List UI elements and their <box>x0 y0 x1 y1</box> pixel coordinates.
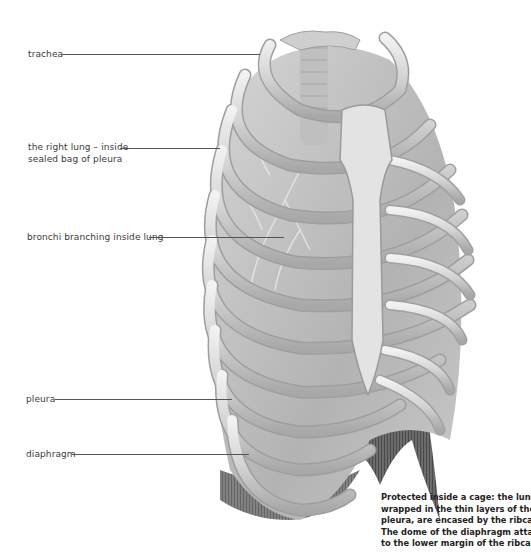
label-text: diaphragm <box>26 449 76 459</box>
label-right-lung: the right lung – inside sealed bag of pl… <box>28 141 128 165</box>
caption-line: wrapped in the thin layers of the <box>381 504 531 516</box>
label-text: sealed bag of pleura <box>28 154 122 164</box>
label-trachea: trachea <box>28 48 63 60</box>
caption-line: Protected inside a cage: the lungs, <box>381 492 531 504</box>
caption-line: pleura, are encased by the ribcage. <box>381 515 531 527</box>
label-diaphragm: diaphragm <box>26 448 76 460</box>
leader-line-diaphragm <box>72 454 249 455</box>
label-text: the right lung – inside <box>28 142 128 152</box>
trachea-shape <box>300 35 328 145</box>
label-bronchi: bronchi branching inside lung <box>27 231 164 243</box>
leader-line-pleura <box>55 399 232 400</box>
caption-line: The dome of the diaphragm attaches <box>381 527 531 539</box>
ribcage-illustration <box>0 0 531 552</box>
label-text: bronchi branching inside lung <box>27 232 164 242</box>
leader-line-trachea <box>62 54 260 55</box>
leader-line-right-lung <box>120 148 220 149</box>
label-pleura: pleura <box>26 393 55 405</box>
figure-caption: Protected inside a cage: the lungs, wrap… <box>381 492 531 550</box>
label-text: pleura <box>26 394 55 404</box>
label-text: trachea <box>28 49 63 59</box>
caption-line: to the lower margin of the ribcage. <box>381 538 531 550</box>
leader-line-bronchi <box>149 237 284 238</box>
